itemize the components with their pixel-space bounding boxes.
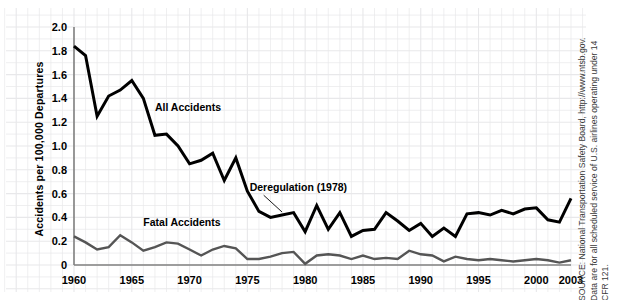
- svg-text:1.2: 1.2: [52, 116, 67, 128]
- svg-text:All Accidents: All Accidents: [155, 101, 221, 113]
- svg-text:2000: 2000: [524, 274, 548, 286]
- svg-text:1990: 1990: [408, 274, 432, 286]
- gridlines: [5, 8, 586, 292]
- svg-text:0.6: 0.6: [52, 188, 67, 200]
- svg-text:0: 0: [61, 259, 67, 271]
- x-axis-tick-labels: 1960196519701975198019851990199520002003: [62, 274, 583, 286]
- chart-area: 00.20.40.60.81.01.21.41.61.82.0 19601965…: [0, 0, 590, 300]
- chart-annotations: Deregulation (1978): [250, 181, 347, 212]
- data-series-lines: [74, 46, 571, 264]
- svg-text:1.6: 1.6: [52, 69, 67, 81]
- svg-text:1960: 1960: [62, 274, 86, 286]
- svg-text:0.2: 0.2: [52, 235, 67, 247]
- svg-text:Deregulation (1978): Deregulation (1978): [250, 181, 347, 193]
- svg-text:1985: 1985: [351, 274, 375, 286]
- svg-text:Fatal Accidents: Fatal Accidents: [143, 216, 220, 228]
- y-axis-title: Accidents per 100,000 Departures: [33, 39, 45, 259]
- accident-rate-chart-figure: 00.20.40.60.81.01.21.41.61.82.0 19601965…: [0, 0, 637, 300]
- line-chart-plot: 00.20.40.60.81.01.21.41.61.82.0 19601965…: [0, 0, 590, 300]
- svg-text:1995: 1995: [466, 274, 490, 286]
- y-axis-tick-labels: 00.20.40.60.81.01.21.41.61.82.0: [52, 21, 68, 271]
- svg-text:1.8: 1.8: [52, 45, 67, 57]
- svg-text:0.8: 0.8: [52, 164, 67, 176]
- svg-text:1.0: 1.0: [52, 140, 67, 152]
- svg-text:1975: 1975: [235, 274, 259, 286]
- svg-text:1970: 1970: [177, 274, 201, 286]
- svg-text:1980: 1980: [293, 274, 317, 286]
- svg-text:0.4: 0.4: [52, 211, 68, 223]
- svg-text:1965: 1965: [120, 274, 144, 286]
- source-note: SOURCE: National Transportation Safety B…: [577, 1, 621, 300]
- svg-text:1.4: 1.4: [52, 92, 68, 104]
- svg-text:2.0: 2.0: [52, 21, 67, 33]
